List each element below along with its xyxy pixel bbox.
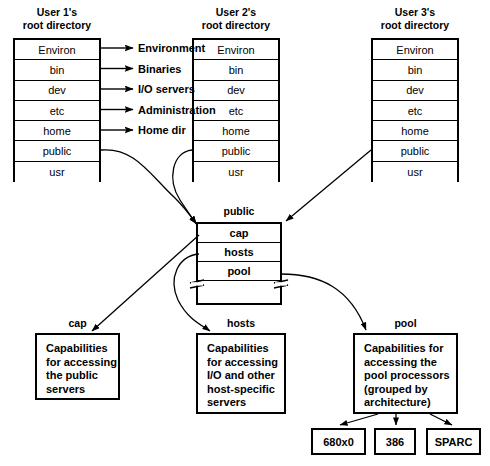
public-entry-cap[interactable]: cap bbox=[198, 224, 280, 243]
arch-box-386[interactable]: 386 bbox=[374, 428, 416, 455]
diagram-canvas: User 1's root directory User 2's root di… bbox=[0, 0, 490, 466]
link-pool-to-680x0 bbox=[340, 414, 378, 425]
dir-entry[interactable]: bin bbox=[15, 60, 99, 80]
dir-entry[interactable]: dev bbox=[373, 81, 457, 101]
cap-line: Capabilities bbox=[46, 342, 118, 356]
side-label-administration: Administration bbox=[138, 104, 216, 116]
column-title-user1-line2: root directory bbox=[13, 19, 101, 32]
link-user1-public-to-public bbox=[101, 150, 197, 224]
hosts-description-box: Capabilities for accessing I/O and other… bbox=[196, 333, 286, 414]
pool-line: (grouped by bbox=[364, 383, 456, 397]
arch-box-680x0[interactable]: 680x0 bbox=[311, 428, 366, 455]
cap-line: the public bbox=[46, 369, 118, 383]
dir-entry[interactable]: Environ bbox=[194, 40, 278, 60]
dir-entry[interactable]: Environ bbox=[373, 40, 457, 60]
column-title-user2: User 2's root directory bbox=[192, 6, 280, 31]
column-title-user3: User 3's root directory bbox=[371, 6, 459, 31]
dir-entry[interactable]: public bbox=[15, 141, 99, 161]
cap-description-box: Capabilities for accessing the public se… bbox=[35, 333, 120, 400]
cap-line: servers bbox=[46, 383, 118, 397]
dir-entry[interactable]: bin bbox=[373, 60, 457, 80]
side-label-environment: Environment bbox=[138, 42, 205, 54]
column-title-user2-line2: root directory bbox=[192, 19, 280, 32]
pool-box-caption: pool bbox=[353, 317, 458, 329]
dir-entry[interactable]: usr bbox=[373, 162, 457, 182]
link-pool-to-sparc bbox=[430, 414, 452, 425]
public-entry-hosts[interactable]: hosts bbox=[198, 243, 280, 262]
dir-entry[interactable]: public bbox=[194, 141, 278, 161]
hosts-line: I/O and other bbox=[207, 369, 284, 383]
dir-entry[interactable]: home bbox=[194, 121, 278, 141]
hosts-line: for accessing bbox=[207, 356, 284, 370]
dir-entry[interactable]: public bbox=[373, 141, 457, 161]
public-node-box: cap hosts pool bbox=[196, 222, 282, 305]
cap-line: for accessing bbox=[46, 356, 118, 370]
pool-line: architecture) bbox=[364, 396, 456, 410]
hosts-box-caption: hosts bbox=[196, 317, 286, 329]
root-directory-user1: Environ bin dev etc home public usr bbox=[13, 38, 101, 182]
side-label-io-servers: I/O servers bbox=[138, 83, 195, 95]
dir-entry[interactable]: home bbox=[15, 121, 99, 141]
public-entry-more bbox=[198, 281, 280, 303]
hosts-line: servers bbox=[207, 396, 284, 410]
dir-entry[interactable]: bin bbox=[194, 60, 278, 80]
dir-entry[interactable]: dev bbox=[194, 81, 278, 101]
pool-description-box: Capabilities for accessing the pool proc… bbox=[353, 333, 458, 414]
dir-entry[interactable]: usr bbox=[194, 162, 278, 182]
column-title-user3-line1: User 3's bbox=[371, 6, 459, 19]
column-title-user2-line1: User 2's bbox=[192, 6, 280, 19]
dir-entry[interactable]: etc bbox=[15, 101, 99, 121]
public-node-caption: public bbox=[196, 205, 282, 217]
side-label-binaries: Binaries bbox=[138, 63, 181, 75]
arch-box-sparc[interactable]: SPARC bbox=[426, 428, 481, 455]
column-title-user1: User 1's root directory bbox=[13, 6, 101, 31]
dir-entry[interactable]: etc bbox=[373, 101, 457, 121]
pool-line: Capabilities for bbox=[364, 342, 456, 356]
hosts-line: host-specific bbox=[207, 383, 284, 397]
link-user3-public-to-public bbox=[286, 150, 371, 221]
pool-line: accessing the bbox=[364, 356, 456, 370]
hosts-line: Capabilities bbox=[207, 342, 284, 356]
dir-entry[interactable]: Environ bbox=[15, 40, 99, 60]
column-title-user3-line2: root directory bbox=[371, 19, 459, 32]
side-label-home-dir: Home dir bbox=[138, 124, 186, 136]
dir-entry[interactable]: home bbox=[373, 121, 457, 141]
public-entry-pool[interactable]: pool bbox=[198, 262, 280, 281]
cap-box-caption: cap bbox=[35, 317, 120, 329]
dir-entry[interactable]: dev bbox=[15, 81, 99, 101]
column-title-user1-line1: User 1's bbox=[13, 6, 101, 19]
root-directory-user3: Environ bin dev etc home public usr bbox=[371, 38, 459, 182]
pool-line: pool processors bbox=[364, 369, 456, 383]
dir-entry[interactable]: usr bbox=[15, 162, 99, 182]
